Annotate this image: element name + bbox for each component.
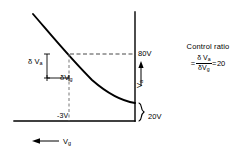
characteristic-curve [33,14,135,103]
control-ratio-annotation: Control ratio = δ Va δVg = 20 [178,42,238,72]
anode-voltage-marker-label: 80V [138,50,152,58]
y-axis-label: Va [136,80,144,88]
valve-characteristic-figure [0,0,240,161]
control-ratio-result-equals: = [212,59,216,68]
control-ratio-numerator: δ Va [196,54,211,64]
control-ratio-value: 20 [217,59,225,68]
control-ratio-equals-sign: = [191,59,195,68]
control-ratio-title: Control ratio [178,42,238,51]
control-ratio-equation: = δ Va δVg = 20 [178,54,238,72]
control-ratio-denominator: δVg [197,64,210,73]
delta-va-label: δ Va [28,58,43,66]
brace-span-label: 20V [148,113,162,121]
vg-arrow-head-icon [32,138,40,144]
grid-voltage-marker-label: -3V [57,112,68,119]
brace-20v-icon [139,103,144,121]
control-ratio-fraction: δ Va δVg [196,54,211,72]
delta-vg-label: δVg [60,74,72,82]
va-arrow-head-icon [138,61,143,68]
x-axis-label: Vg [63,138,71,146]
